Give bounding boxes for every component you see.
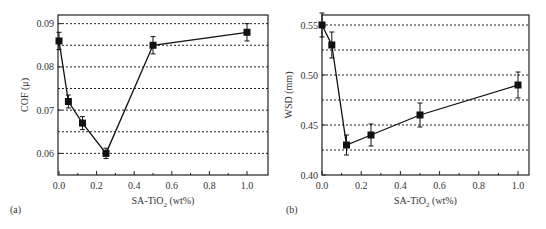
- data-point: [65, 98, 72, 105]
- panel-label: (b): [286, 204, 298, 216]
- panel-label: (a): [10, 204, 21, 216]
- x-tick-label: 1.0: [512, 180, 525, 191]
- data-point: [343, 142, 350, 149]
- x-tick-label: 0.4: [394, 180, 407, 191]
- data-point: [56, 37, 63, 44]
- y-tick-label: 0.45: [301, 120, 319, 131]
- plot-frame: [58, 15, 268, 175]
- y-tick-label: 0.08: [37, 61, 55, 72]
- x-tick-label: 0.2: [355, 180, 368, 191]
- x-tick-label: 0.0: [316, 180, 329, 191]
- y-tick-label: 0.55: [301, 20, 319, 31]
- data-point: [328, 42, 335, 49]
- y-tick-label: 0.40: [301, 170, 319, 181]
- chart-panel-a: 0.00.20.40.60.81.00.060.070.080.09SA-TiO…: [10, 15, 268, 216]
- y-axis-label: COF (μ): [19, 78, 31, 112]
- data-point: [244, 29, 251, 36]
- data-point: [103, 150, 110, 157]
- x-tick-label: 0.0: [53, 180, 66, 191]
- data-point: [79, 120, 86, 127]
- data-point: [515, 82, 522, 89]
- x-axis-label: SA-TiO2 (wt%): [132, 195, 195, 209]
- x-tick-label: 1.0: [241, 180, 254, 191]
- x-axis-label: SA-TiO2 (wt%): [394, 195, 457, 209]
- data-point: [417, 112, 424, 119]
- figure: 0.00.20.40.60.81.00.060.070.080.09SA-TiO…: [0, 0, 546, 229]
- data-point: [150, 42, 157, 49]
- x-tick-label: 0.8: [203, 180, 216, 191]
- y-tick-label: 0.09: [37, 18, 55, 29]
- x-tick-label: 0.4: [128, 180, 141, 191]
- x-tick-label: 0.6: [433, 180, 446, 191]
- x-tick-label: 0.8: [473, 180, 486, 191]
- x-tick-label: 0.6: [166, 180, 179, 191]
- y-axis-label: WSD (mm): [283, 72, 295, 119]
- chart-panel-b: 0.00.20.40.60.81.00.400.450.500.55SA-TiO…: [283, 13, 529, 216]
- y-tick-label: 0.06: [37, 148, 55, 159]
- y-tick-label: 0.50: [301, 70, 319, 81]
- x-tick-label: 0.2: [90, 180, 103, 191]
- data-point: [368, 132, 375, 139]
- plot-frame: [322, 15, 529, 175]
- y-tick-label: 0.07: [37, 105, 55, 116]
- data-point: [319, 22, 326, 29]
